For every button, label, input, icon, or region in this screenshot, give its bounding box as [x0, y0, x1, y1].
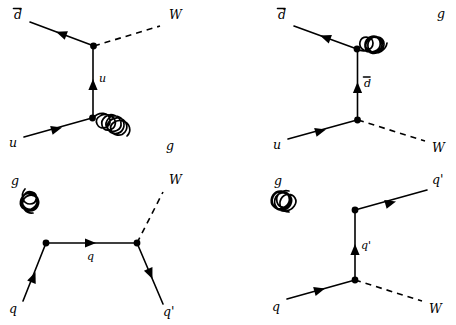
vertex-lower [89, 115, 96, 122]
vertex-lower-2 [354, 117, 361, 124]
qprime-outgoing-line-4 [355, 190, 427, 210]
dbar-arrowhead-2 [318, 31, 331, 43]
vertex-upper-4 [352, 207, 359, 214]
dbar-propagator-arrowhead [353, 82, 362, 93]
gluon-outgoing-coil-2 [357, 36, 387, 53]
w-outgoing-dashed-line-4 [355, 280, 422, 301]
diagram-top-right: d g d u W [273, 6, 446, 155]
u-incoming-arrowhead-2 [314, 125, 327, 137]
vertex-upper-2 [354, 46, 361, 53]
w-outgoing-dashed-line-2 [358, 120, 425, 141]
label-qprime-outgoing-4: q' [432, 172, 443, 187]
feynman-diagram-figure: d W u u g [0, 0, 456, 325]
label-g-outgoing: g [166, 138, 174, 153]
label-q-incoming-4: q [272, 299, 280, 314]
u-propagator-arrowhead [88, 79, 97, 90]
label-g-outgoing-2: g [437, 6, 445, 21]
vertex-left-3 [43, 240, 50, 247]
q-propagator-arrowhead-3 [85, 238, 96, 247]
vertex-lower-4 [352, 277, 359, 284]
label-u-propagator: u [99, 72, 106, 85]
diagram-bottom-right: g q' q' q W [271, 172, 443, 316]
label-dbar-propagator: d [364, 77, 371, 90]
label-q-incoming-3: q [9, 301, 17, 316]
q-incoming-line-3 [23, 243, 46, 301]
diagram-top-left: d W u u g [9, 7, 183, 153]
qprime-propagator-arrowhead-4 [350, 244, 359, 255]
label-u-incoming-2: u [273, 137, 281, 152]
label-g-incoming-4: g [274, 173, 282, 188]
dbar-arrowhead [54, 27, 68, 39]
qprime-outgoing-arrowhead-3 [144, 267, 157, 281]
vertex-right-3 [134, 240, 141, 247]
label-w-outgoing-3: W [169, 172, 183, 187]
label-g-incoming-3: g [11, 173, 19, 188]
gluon-incoming-coil-4 [271, 191, 296, 212]
label-q-propagator-3: q [87, 250, 94, 263]
w-outgoing-dashed-line [94, 26, 160, 46]
q-incoming-arrowhead-4 [313, 284, 326, 296]
label-qprime-propagator-4: q' [361, 239, 371, 252]
q-incoming-arrowhead-3 [27, 270, 40, 284]
label-qprime-outgoing-3: q' [163, 304, 174, 319]
gluon-incoming-coil-3 [20, 189, 38, 213]
feynman-diagrams-canvas: d W u u g [0, 0, 456, 325]
vertex-upper [90, 43, 97, 50]
label-w-outgoing: W [169, 7, 183, 22]
w-outgoing-dashed-line-3 [137, 192, 163, 243]
gluon-outgoing-coil [93, 113, 130, 136]
diagram-bottom-left: g q q W q' [9, 172, 183, 319]
u-incoming-arrowhead [50, 123, 63, 135]
label-w-outgoing-4: W [429, 301, 443, 316]
label-w-outgoing-2: W [432, 140, 446, 155]
label-u-incoming: u [9, 135, 17, 150]
